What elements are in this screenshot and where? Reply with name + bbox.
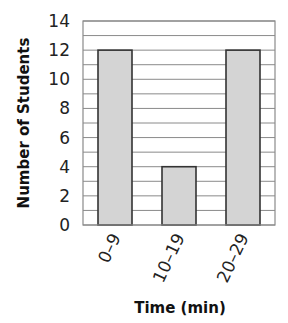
x-tick-label: 0–9 [94,230,125,266]
y-tick-label: 8 [59,98,70,118]
y-axis-label: Number of Students [15,38,33,209]
x-tick-label: 20–29 [213,230,253,285]
y-tick-label: 10 [48,69,70,89]
y-tick-label: 0 [59,215,70,235]
y-tick-label: 4 [59,157,70,177]
bar [162,167,196,225]
x-axis-label: Time (min) [134,299,226,317]
bar [226,50,260,225]
x-axis-ticks: 0–910–1920–29 [94,230,253,285]
y-tick-label: 14 [48,11,70,31]
y-tick-label: 2 [59,186,70,206]
y-axis-ticks: 02468101214 [48,11,70,235]
x-tick-label: 10–19 [149,230,189,285]
bar-chart: 02468101214 0–910–1920–29 Number of Stud… [0,0,288,323]
y-tick-label: 12 [48,40,70,60]
bar [98,50,132,225]
y-tick-label: 6 [59,128,70,148]
